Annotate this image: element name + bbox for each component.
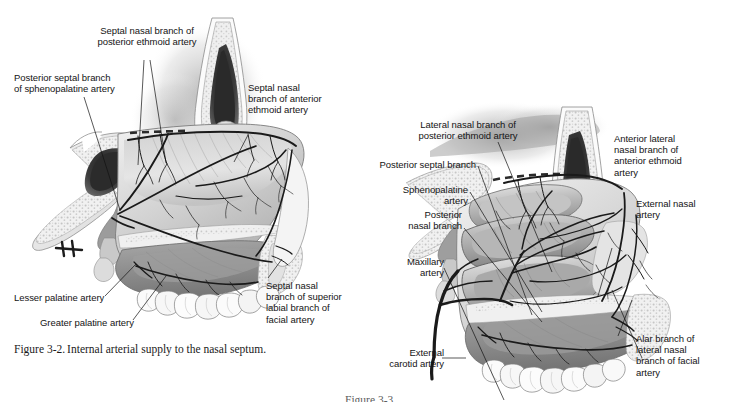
label-external-carotid-artery: External carotid artery — [336, 347, 444, 369]
figure-left-caption: Figure 3-2.Internal arterial supply to t… — [14, 342, 266, 356]
label-septal-nasal-branch-anterior-ethmoid-artery: Septal nasal branch of anterior ethmoid … — [248, 82, 343, 116]
label-posterior-septal-branch-sphenopalatine-artery: Posterior septal branch of sphenopalatin… — [14, 72, 189, 94]
figure-right-caption-number: Figure 3-3. — [345, 394, 396, 402]
label-septal-nasal-branch-posterior-ethmoid-artery: Septal nasal branch of posterior ethmoid… — [58, 25, 236, 47]
figure-left-caption-text: Internal arterial supply to the nasal se… — [67, 343, 266, 355]
label-anterior-lateral-nasal-branch-anterior-ethmoid-artery: Anterior lateral nasal branch of anterio… — [614, 133, 726, 178]
label-greater-palatine-artery: Greater palatine artery — [40, 317, 185, 328]
label-external-nasal-artery: External nasal artery — [636, 198, 728, 220]
label-alar-branch-lateral-nasal-branch-facial-artery: Alar branch of lateral nasal branch of f… — [636, 333, 729, 378]
label-maxillary-artery: Maxillary artery — [344, 256, 444, 278]
label-lesser-palatine-artery: Lesser palatine artery — [14, 292, 154, 303]
label-lateral-nasal-branch-posterior-ethmoid-artery: Lateral nasal branch of posterior ethmoi… — [378, 119, 558, 141]
label-posterior-nasal-branch: Posterior nasal branch — [344, 209, 462, 231]
label-posterior-septal-branch: Posterior septal branch — [336, 159, 476, 170]
figure-page: Septal nasal branch of posterior ethmoid… — [0, 0, 729, 402]
figure-left-caption-number: Figure 3-2. — [14, 343, 65, 355]
figure-right-caption: Figure 3-3. — [345, 393, 398, 402]
label-sphenopalatine-artery: Sphenopalatine artery — [346, 184, 468, 206]
